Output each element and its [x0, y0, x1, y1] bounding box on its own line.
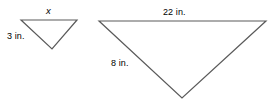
small-triangle-left-side-label: 3 in. — [7, 31, 25, 41]
triangles-svg — [0, 0, 271, 104]
small-triangle-top-label: x — [46, 6, 51, 16]
large-triangle-top-label: 22 in. — [163, 7, 186, 17]
large-triangle-left-side-label: 8 in. — [111, 58, 129, 68]
geometry-figure: x 3 in. 22 in. 8 in. — [0, 0, 271, 104]
small-triangle-shape — [21, 20, 77, 49]
